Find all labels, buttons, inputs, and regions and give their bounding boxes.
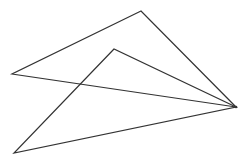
inner-triangle [14,49,236,153]
shared-vertex-point [235,106,238,109]
large-triangle [12,11,236,107]
diagram-canvas [0,0,251,162]
